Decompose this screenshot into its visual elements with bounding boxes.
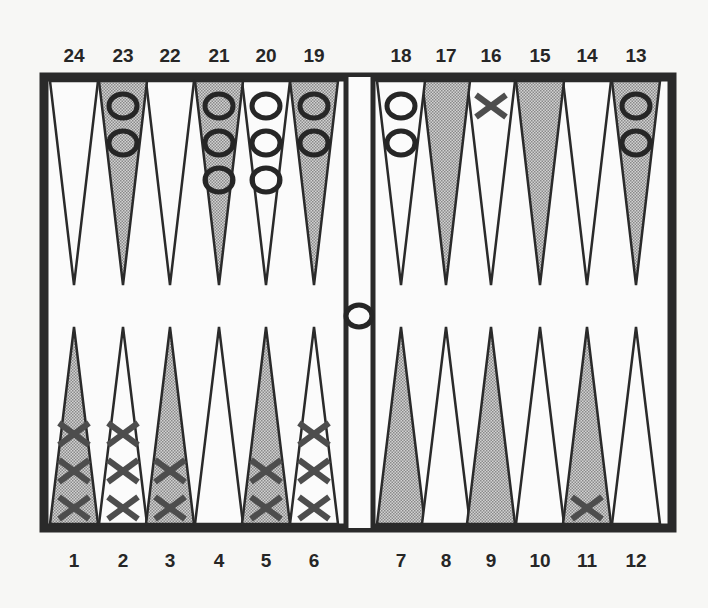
top-point-label: 21 <box>199 46 239 66</box>
bottom-point-label: 7 <box>381 551 421 571</box>
bottom-point-label: 11 <box>567 551 607 571</box>
top-point-label: 14 <box>567 46 607 66</box>
top-point-label: 23 <box>103 46 143 66</box>
top-point-label: 19 <box>294 46 334 66</box>
bottom-point-label: 5 <box>246 551 286 571</box>
bottom-point-label: 10 <box>520 551 560 571</box>
bar[interactable] <box>346 77 373 528</box>
bottom-point-label: 4 <box>199 551 239 571</box>
bottom-point-label: 1 <box>54 551 94 571</box>
top-point-label: 16 <box>471 46 511 66</box>
bar-checker-o[interactable] <box>346 305 372 327</box>
top-point-label: 13 <box>616 46 656 66</box>
top-point-label: 24 <box>54 46 94 66</box>
backgammon-board <box>0 0 708 608</box>
top-point-label: 20 <box>246 46 286 66</box>
top-point-label: 22 <box>150 46 190 66</box>
top-point-label: 18 <box>381 46 421 66</box>
bottom-point-label: 8 <box>426 551 466 571</box>
bottom-point-label: 9 <box>471 551 511 571</box>
bottom-point-label: 12 <box>616 551 656 571</box>
bottom-point-label: 6 <box>294 551 334 571</box>
top-point-label: 15 <box>520 46 560 66</box>
bottom-point-label: 2 <box>103 551 143 571</box>
bottom-point-label: 3 <box>150 551 190 571</box>
top-point-label: 17 <box>426 46 466 66</box>
